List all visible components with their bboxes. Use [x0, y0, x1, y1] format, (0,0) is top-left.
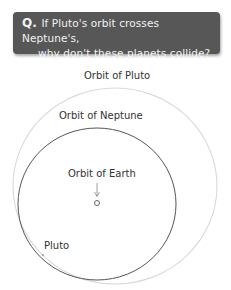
- neptune-orbit: [18, 128, 176, 280]
- earth-orbit-label: Orbit of Earth: [68, 168, 136, 179]
- pluto-label: Pluto: [44, 240, 69, 251]
- pluto-orbit-label: Orbit of Pluto: [84, 70, 150, 81]
- pluto-marker: [42, 254, 44, 256]
- orbit-diagram: [0, 0, 231, 290]
- neptune-orbit-label: Orbit of Neptune: [59, 110, 143, 121]
- earth-orbit: [95, 201, 100, 206]
